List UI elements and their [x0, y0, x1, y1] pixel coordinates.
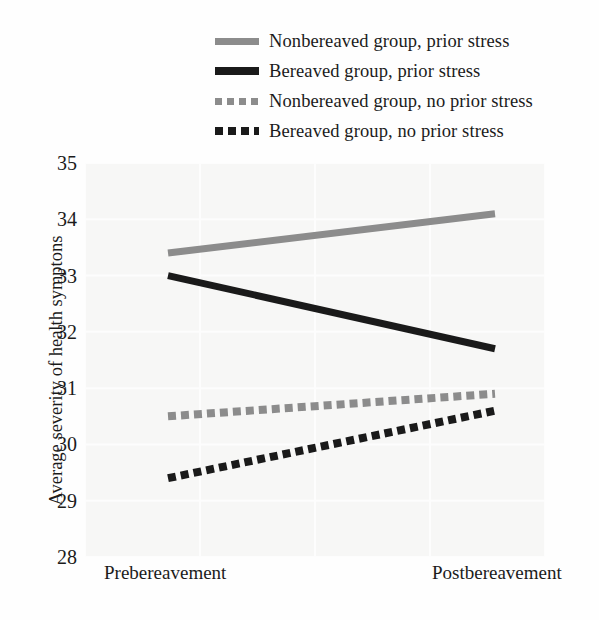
- y-tick-label-30: 30: [37, 434, 77, 454]
- x-tick-label-prebereavement: Prebereavement: [104, 562, 226, 584]
- y-tick-label-31: 31: [37, 378, 77, 398]
- legend-swatch-dotted-black-icon: [215, 127, 259, 135]
- y-tick-label-29: 29: [37, 491, 77, 511]
- legend-swatch-solid-gray-icon: [215, 38, 259, 45]
- legend-item-nonbereaved-no-prior-stress[interactable]: Nonbereaved group, no prior stress: [215, 86, 595, 116]
- chart-figure: Nonbereaved group, prior stress Bereaved…: [0, 0, 599, 620]
- legend-label: Nonbereaved group, prior stress: [269, 31, 509, 52]
- legend-item-nonbereaved-prior-stress[interactable]: Nonbereaved group, prior stress: [215, 26, 595, 56]
- chart-legend: Nonbereaved group, prior stress Bereaved…: [215, 26, 595, 146]
- y-tick-label-35: 35: [37, 153, 77, 173]
- legend-item-bereaved-no-prior-stress[interactable]: Bereaved group, no prior stress: [215, 116, 595, 146]
- data-series: [168, 214, 495, 479]
- series-line-2: [168, 394, 495, 417]
- legend-item-bereaved-prior-stress[interactable]: Bereaved group, prior stress: [215, 56, 595, 86]
- legend-swatch-dotted-gray-icon: [215, 98, 259, 105]
- legend-label: Bereaved group, no prior stress: [269, 121, 504, 142]
- gridlines: [85, 163, 545, 557]
- y-axis-tick-labels: 3534333231302928: [35, 163, 77, 557]
- series-line-1: [168, 276, 495, 349]
- y-tick-label-34: 34: [37, 209, 77, 229]
- y-tick-label-32: 32: [37, 322, 77, 342]
- legend-label: Bereaved group, prior stress: [269, 61, 480, 82]
- plot-svg: [85, 163, 545, 557]
- x-tick-label-postbereavement: Postbereavement: [432, 562, 562, 584]
- plot-area: [85, 163, 545, 557]
- legend-label: Nonbereaved group, no prior stress: [269, 91, 533, 112]
- y-tick-label-33: 33: [37, 266, 77, 286]
- legend-swatch-solid-black-icon: [215, 67, 259, 75]
- x-axis-tick-labels: Prebereavement Postbereavement: [0, 562, 599, 592]
